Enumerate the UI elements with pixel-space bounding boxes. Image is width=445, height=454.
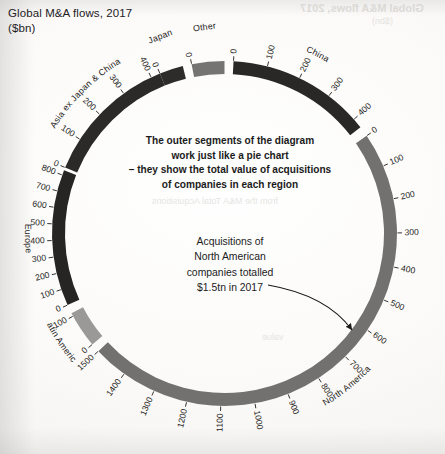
tick-mark xyxy=(329,92,332,96)
annotation-pie-note-line-1: The outer segments of the diagram xyxy=(100,134,360,149)
tick-label: 100 xyxy=(388,152,405,167)
tick-mark xyxy=(367,133,371,136)
tick-label: 0 xyxy=(52,157,60,168)
tick-label: 1000 xyxy=(252,410,265,431)
tick-label: 200 xyxy=(34,270,50,283)
tick-mark xyxy=(354,116,357,119)
tick-mark xyxy=(69,316,73,318)
tick-mark xyxy=(185,402,186,406)
tick-label: 600 xyxy=(32,198,48,210)
chord-diagram-ring: 0001002003004000100200300400500600700800… xyxy=(0,0,445,454)
tick-mark xyxy=(63,305,67,307)
tick-label: 400 xyxy=(138,55,153,72)
tick-mark xyxy=(268,62,269,66)
annotation-na-note-line-2: North American xyxy=(150,249,310,264)
annotation-pie-note-line-2: work just like a pie chart xyxy=(100,149,360,164)
tick-mark xyxy=(57,290,61,291)
tick-label: 900 xyxy=(287,399,302,416)
tick-mark xyxy=(53,190,57,191)
tick-label: 300 xyxy=(107,72,124,90)
chart-canvas: Global M&A flows, 2017 ($bn) from the M&… xyxy=(0,0,445,454)
tick-mark xyxy=(368,330,372,333)
tick-mark xyxy=(191,59,192,63)
tick-mark xyxy=(58,173,62,175)
tick-label: 100 xyxy=(264,44,277,61)
tick-mark xyxy=(121,374,124,378)
tick-label: 0 xyxy=(184,51,195,58)
tick-label: 200 xyxy=(81,95,98,112)
tick-mark xyxy=(49,257,53,258)
annotation-na-note-line-1: Acquisitions of xyxy=(150,234,310,249)
tick-label: 300 xyxy=(404,227,419,237)
tick-label: 300 xyxy=(31,252,47,264)
tick-mark xyxy=(394,198,398,199)
tick-mark xyxy=(394,267,398,268)
tick-mark xyxy=(346,357,349,360)
tick-mark xyxy=(61,166,65,168)
region-label: Japan xyxy=(147,27,174,46)
tick-label: 600 xyxy=(371,330,389,346)
tick-mark xyxy=(319,379,321,383)
tick-mark xyxy=(288,394,290,398)
tick-label: 200 xyxy=(298,56,313,73)
ring-segment xyxy=(71,307,102,344)
region-label: Other xyxy=(192,20,216,33)
tick-label: 1100 xyxy=(214,413,224,432)
tick-label: 500 xyxy=(389,298,406,313)
annotation-north-america-note: Acquisitions of North American companies… xyxy=(150,234,310,296)
tick-label: 400 xyxy=(356,100,374,117)
tick-label: 400 xyxy=(400,263,416,276)
annotation-pie-note-line-3: – they show the total value of acquisiti… xyxy=(100,163,360,178)
tick-label: 200 xyxy=(400,189,416,202)
ring-segment xyxy=(192,61,225,77)
tick-label: 1400 xyxy=(104,376,123,398)
tick-mark xyxy=(384,164,388,166)
tick-mark xyxy=(149,73,151,77)
tick-mark xyxy=(95,351,98,354)
tick-label: 100 xyxy=(39,286,56,300)
tick-label: 0 xyxy=(54,303,63,314)
annotation-na-note-line-3: companies totalled xyxy=(150,265,310,280)
tick-label: 300 xyxy=(329,75,346,93)
tick-label: 0 xyxy=(370,124,380,135)
tick-mark xyxy=(152,391,154,395)
tick-label: 0 xyxy=(228,48,238,54)
tick-label: 1300 xyxy=(138,395,155,417)
tick-mark xyxy=(300,74,302,78)
annotation-pie-note: The outer segments of the diagram work j… xyxy=(100,134,360,192)
tick-mark xyxy=(96,111,99,114)
ring-segment xyxy=(233,61,361,135)
tick-mark xyxy=(384,300,388,302)
region-label: Europe xyxy=(23,224,34,254)
tick-mark xyxy=(89,345,92,348)
tick-label: 100 xyxy=(59,123,77,139)
tick-mark xyxy=(49,206,53,207)
tick-mark xyxy=(255,404,256,408)
ring-segment xyxy=(160,66,186,85)
tick-label: 700 xyxy=(35,180,52,193)
tick-mark xyxy=(76,137,80,139)
annotation-na-note-line-4: $1.5tn in 2017 xyxy=(150,280,310,295)
tick-label: 1200 xyxy=(175,408,189,429)
tick-mark xyxy=(158,69,160,73)
tick-mark xyxy=(52,274,56,275)
annotation-pie-note-line-4: of companies in each region xyxy=(100,178,360,193)
tick-mark xyxy=(121,89,124,93)
